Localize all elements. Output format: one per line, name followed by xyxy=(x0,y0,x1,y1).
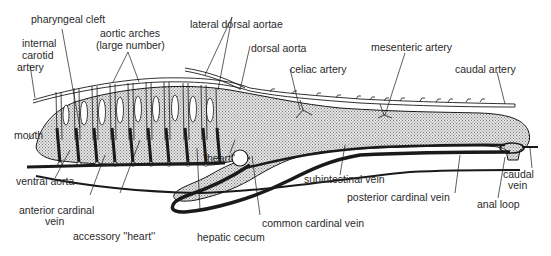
label-internal-carotid-3: artery xyxy=(17,61,45,73)
label-internal-carotid-2: carotid xyxy=(22,49,54,61)
anterior-cardinal-vein xyxy=(36,170,520,193)
amphioxus-circulation-diagram: pharyngeal cleft aortic arches (large nu… xyxy=(0,0,551,256)
label-posterior-cardinal-vein: posterior cardinal vein xyxy=(347,191,450,203)
label-aortic-arches-sub: (large number) xyxy=(96,39,165,51)
label-anterior-cardinal-vein-2: vein xyxy=(45,215,64,227)
label-dorsal-aorta: dorsal aorta xyxy=(251,42,307,54)
label-anal-loop: anal loop xyxy=(477,198,520,210)
label-internal-carotid-1: internal xyxy=(22,37,56,49)
label-aortic-arches: aortic arches xyxy=(100,27,160,39)
label-pharyngeal-cleft: pharyngeal cleft xyxy=(31,13,105,25)
label-lateral-dorsal-aortae: lateral dorsal aortae xyxy=(190,18,283,30)
label-caudal-vein-2: vein xyxy=(508,179,527,191)
label-ventral-aorta: ventral aorta xyxy=(16,175,75,187)
label-caudal-artery: caudal artery xyxy=(455,63,516,75)
label-accessory-heart: accessory ''heart'' xyxy=(73,230,155,242)
ventral-aorta xyxy=(27,163,225,167)
label-hepatic-cecum: hepatic cecum xyxy=(197,231,265,243)
label-heart: ''heart'' xyxy=(203,152,235,164)
label-celiac-artery: celiac artery xyxy=(290,63,347,75)
label-mesenteric-artery: mesenteric artery xyxy=(371,41,453,53)
label-common-cardinal-vein: common cardinal vein xyxy=(262,217,364,229)
label-mouth: mouth xyxy=(14,129,43,141)
label-subintestinal-vein: subintestinal vein xyxy=(304,173,385,185)
